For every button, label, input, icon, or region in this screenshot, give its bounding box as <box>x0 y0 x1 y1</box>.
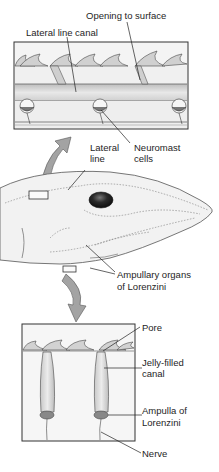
shark-head <box>0 170 212 274</box>
label-opening-to-surface: Opening to surface <box>86 10 166 21</box>
label-nerve: Nerve <box>142 448 167 459</box>
label-neuromast: Neuromast <box>134 142 180 153</box>
label-jelly-filled-2: canal <box>142 368 165 379</box>
lateral-line-panel <box>14 22 188 143</box>
label-ampullary-organs: Ampullary organs <box>117 269 191 280</box>
label-jelly-filled: Jelly-filled <box>142 357 184 368</box>
label-ampulla: Ampulla of <box>142 405 187 416</box>
label-neuromast-2: cells <box>134 153 153 164</box>
label-lateral-line-2: line <box>90 153 105 164</box>
diagram-artwork <box>0 0 219 472</box>
label-ampulla-2: Lorenzini <box>142 417 181 428</box>
label-ampullary-organs-2: of Lorenzini <box>117 281 166 292</box>
ampullae-panel <box>22 324 142 453</box>
label-lateral-line: Lateral <box>90 142 119 153</box>
label-pore: Pore <box>142 322 162 333</box>
label-lateral-line-canal: Lateral line canal <box>26 27 98 38</box>
